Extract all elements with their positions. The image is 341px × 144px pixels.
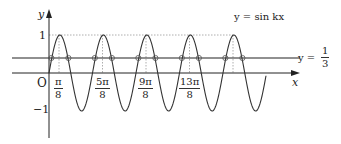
x-tick-pi-8: π 8 — [54, 77, 63, 100]
graph-canvas — [0, 0, 341, 144]
x-tick-5pi-8: 5π 8 — [95, 77, 110, 100]
x-tick-9pi-8: 9π 8 — [138, 77, 153, 100]
sine-figure: y 1 −1 O x y = sin kx y = 1 3 π 8 5π 8 9… — [0, 0, 341, 144]
line-label-prefix: y = — [298, 53, 315, 63]
x-axis-label: x — [292, 77, 298, 88]
x-tick-13pi-8: 13π 8 — [179, 77, 200, 100]
origin-label: O — [37, 77, 47, 89]
y-tick-1: 1 — [39, 30, 46, 41]
y-axis-label: y — [38, 9, 44, 20]
function-label: y = sin kx — [234, 12, 284, 22]
line-label-fraction: 1 3 — [321, 46, 329, 69]
peak-guides — [59, 35, 233, 73]
y-axis-arrow-icon — [46, 9, 52, 18]
y-tick-neg1: −1 — [33, 104, 49, 115]
